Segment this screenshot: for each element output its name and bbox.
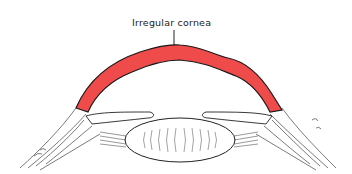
- eye-diagram: [0, 0, 352, 174]
- cornea: [76, 45, 282, 112]
- lens: [125, 118, 235, 162]
- iris-left: [86, 112, 154, 124]
